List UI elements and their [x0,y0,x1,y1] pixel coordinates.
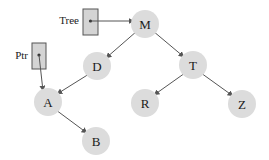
tree-pointer: Tree [59,9,134,35]
tree-diagram: Tree Ptr M D T A R Z B [0,0,269,160]
edge-M-D [106,31,137,58]
ptr-pointer: Ptr [15,43,46,91]
node-label: A [43,95,53,110]
tree-node-A: A [34,88,62,116]
node-label: T [189,58,197,73]
node-label: Z [238,97,246,112]
ptr-pointer-label: Ptr [15,49,28,61]
node-label: B [92,134,101,149]
node-label: M [139,17,151,32]
tree-node-Z: Z [228,90,256,118]
edge-T-R [154,73,185,95]
tree-pointer-label: Tree [59,14,79,26]
node-label: R [141,96,150,111]
edge-A-B [56,110,87,133]
tree-node-M: M [131,10,159,38]
tree-node-T: T [179,51,207,79]
edge-M-T [153,31,184,57]
edge-T-Z [201,73,233,96]
edges [56,31,233,133]
edge-D-A [57,74,89,94]
tree-node-D: D [83,52,111,80]
node-label: D [92,59,101,74]
tree-node-R: R [131,89,159,117]
tree-node-B: B [82,127,110,155]
